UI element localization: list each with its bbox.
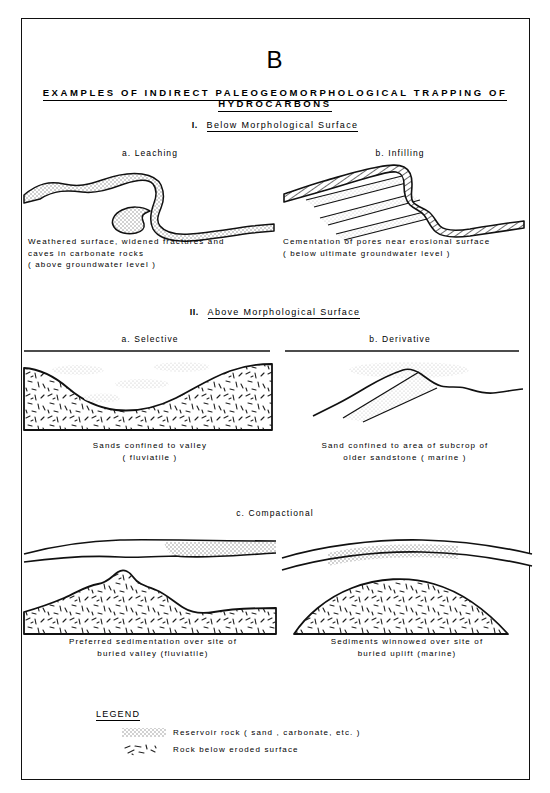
caption-selective: Sands confined to valley ( fluviatile ) xyxy=(30,440,270,463)
caption-compactional-valley: Preferred sedimentation over site of bur… xyxy=(28,636,278,659)
caption-derivative: Sand confined to area of subcrop of olde… xyxy=(285,440,525,463)
panel-label-infilling: b. Infilling xyxy=(290,148,510,158)
caption-leaching: Weathered surface, widened fractures and… xyxy=(28,236,268,271)
section-numeral-2: II. xyxy=(190,307,199,317)
selective-sand-lens xyxy=(52,365,104,375)
stipple-swatch-icon xyxy=(122,727,166,738)
panel-label-leaching: a. Leaching xyxy=(40,148,260,158)
legend-label-rock: Rock below eroded surface xyxy=(173,745,299,754)
dashes-swatch-icon xyxy=(122,744,166,755)
panel-letter: B xyxy=(0,46,550,74)
figure-sheet: B EXAMPLES OF INDIRECT PALEOGEOMORPHOLOG… xyxy=(0,0,550,793)
legend-label-reservoir: Reservoir rock ( sand , carbonate, etc. … xyxy=(173,728,361,737)
derivative-subcrop-body xyxy=(343,372,437,422)
selective-sand-lens xyxy=(154,362,210,372)
section-heading-1: I. Below Morphological Surface xyxy=(0,120,550,130)
diagram-compactional-uplift xyxy=(282,528,532,634)
panel-label-compactional: c. Compactional xyxy=(0,508,550,518)
caption-infilling: Cementation of pores near erosional surf… xyxy=(283,236,533,259)
section-title-2: Above Morphological Surface xyxy=(208,307,361,319)
diagram-derivative xyxy=(285,348,523,430)
section-heading-2: II. Above Morphological Surface xyxy=(0,307,550,317)
panel-label-derivative: b. Derivative xyxy=(290,334,510,344)
diagram-leaching xyxy=(24,163,274,241)
panel-label-selective: a. Selective xyxy=(40,334,260,344)
section-numeral-1: I. xyxy=(192,120,198,130)
legend: LEGEND Reservoir rock ( sand , carbonate… xyxy=(96,703,476,755)
selective-basement-rock xyxy=(24,364,272,430)
diagram-selective xyxy=(24,348,272,430)
legend-entry-reservoir: Reservoir rock ( sand , carbonate, etc. … xyxy=(122,727,476,738)
caption-compactional-uplift: Sediments winnowed over site of buried u… xyxy=(282,636,532,659)
legend-entry-rock: Rock below eroded surface xyxy=(122,744,476,755)
leaching-cave xyxy=(112,207,150,234)
compactional-buried-valley-rock xyxy=(24,570,276,634)
figure-title: EXAMPLES OF INDIRECT PALEOGEOMORPHOLOGIC… xyxy=(0,87,550,109)
diagram-compactional-valley xyxy=(24,528,276,634)
selective-sand-lens xyxy=(115,379,169,389)
uplift-buried-dome-rock xyxy=(294,579,508,634)
diagram-infilling xyxy=(284,160,524,242)
leaching-weathered-zone xyxy=(24,173,274,241)
section-title-1: Below Morphological Surface xyxy=(207,120,359,132)
figure-title-text: EXAMPLES OF INDIRECT PALEOGEOMORPHOLOGIC… xyxy=(43,87,508,112)
selective-sand-lens xyxy=(84,394,120,403)
legend-title: LEGEND xyxy=(96,709,140,721)
